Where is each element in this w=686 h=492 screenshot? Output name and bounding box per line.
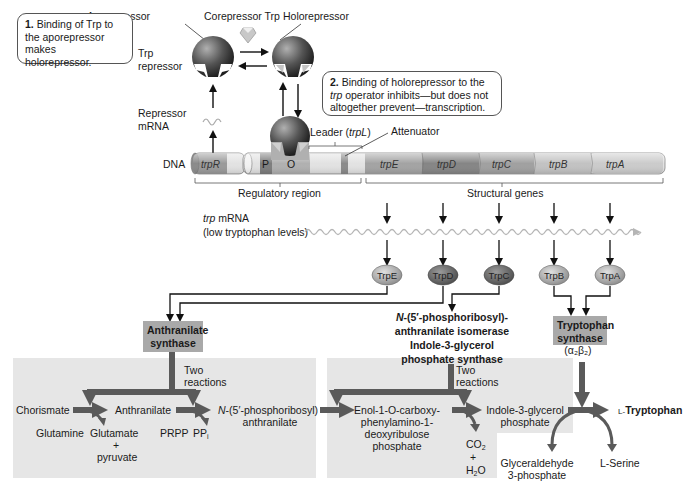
bound-holorepressor-icon — [270, 116, 310, 160]
svg-text:TrpD: TrpD — [433, 270, 454, 281]
igp-synthase-label-1: Indole-3-glycerol — [410, 339, 494, 351]
leader-label: Leader (trpL) — [310, 126, 371, 138]
protein-TrpE: TrpE — [372, 265, 402, 285]
regulatory-region-bracket — [195, 178, 361, 187]
callout-step-1: 1. Binding of Trp to the aporepressor ma… — [17, 13, 133, 64]
trp-repressor-label-1: Trp — [138, 47, 154, 59]
tryptophan-synthase-box: Tryptophan synthase — [553, 316, 607, 345]
holorepressor-icon — [272, 36, 314, 80]
igp-synthase-label-2: phosphate synthase — [401, 353, 503, 365]
npra-1: N-(5′-phosphoribosyl) — [218, 404, 318, 416]
chorismate: Chorismate — [16, 404, 70, 416]
holorepressor-label: Holorepressor — [283, 10, 349, 22]
dna-trpR-segment: trpR — [191, 153, 245, 174]
co2: CO2 — [466, 438, 486, 451]
pyruvate: pyruvate — [97, 451, 137, 463]
two-reactions-2b: reactions — [456, 376, 499, 388]
leader-bracket — [309, 142, 362, 149]
regulatory-region-label: Regulatory region — [238, 187, 321, 199]
isomerase-label-1: N-(5′-phosphoribosyl)- — [396, 311, 509, 323]
aporepressor-leader-line — [185, 24, 205, 40]
transcription-arrows — [387, 203, 610, 220]
gene-trpA: trpA — [606, 159, 625, 170]
igp-1: Indole-3-glycerol — [486, 404, 564, 416]
anthranilate-synthase-box: Anthranilate synthase — [143, 321, 203, 352]
cdrp-4: phosphate — [372, 440, 421, 452]
trp-repressor-label-2: repressor — [138, 60, 183, 72]
trp-mrna-sublabel: (low tryptophan levels) — [203, 226, 308, 238]
translation-arrows — [387, 240, 610, 262]
g3p-2: 3-phosphate — [508, 469, 567, 481]
svg-text:TrpE: TrpE — [377, 270, 397, 281]
svg-text:TrpB: TrpB — [544, 270, 564, 281]
gene-trpC: trpC — [492, 159, 512, 170]
gene-trpD: trpD — [437, 159, 456, 170]
callout-step-2: 2. Binding of holorepressor to the trp o… — [322, 71, 502, 116]
repressor-mrna-wave — [203, 119, 221, 125]
prpp: PRPP — [160, 427, 189, 439]
promoter-label: P — [262, 158, 269, 170]
structural-genes-label: Structural genes — [467, 187, 543, 199]
cdrp-1: Enol-1-O-carboxy- — [354, 404, 440, 416]
structural-genes-bracket — [366, 178, 663, 187]
repressor-mrna-label-2: mRNA — [138, 120, 169, 132]
anthranilate: Anthranilate — [115, 404, 171, 416]
aporepressor-icon — [192, 36, 234, 80]
assembly-connectors — [170, 286, 610, 318]
h2o: H2O — [466, 464, 486, 477]
gene-trpR: trpR — [201, 159, 220, 170]
npra-2: anthranilate — [243, 416, 298, 428]
isomerase-label-2: anthranilate isomerase — [395, 325, 510, 337]
corepressor-label: Corepressor Trp — [204, 10, 280, 22]
protein-TrpA: TrpA — [595, 265, 625, 285]
ppi: PPi — [193, 427, 209, 440]
dna-label: DNA — [163, 158, 185, 170]
g3p-1: Glyceraldehyde — [501, 457, 574, 469]
two-reactions-2a: Two — [456, 364, 475, 376]
gene-trpB: trpB — [549, 159, 568, 170]
trp-mrna-label: trp mRNA — [203, 212, 249, 224]
co2-plus: + — [470, 451, 476, 463]
two-reactions-1b: reactions — [184, 376, 227, 388]
igp-2: phosphate — [500, 416, 549, 428]
cdrp-3: deoxyribulose — [365, 428, 430, 440]
protein-TrpB: TrpB — [539, 265, 569, 285]
trp-synthase-subunits: (α₂β₂) — [564, 344, 591, 356]
l-tryptophan: L-Tryptophan — [618, 404, 682, 416]
gene-trpE: trpE — [380, 159, 399, 170]
repressor-mrna-label-1: Repressor — [138, 107, 187, 119]
glutamate-plus: + — [113, 439, 119, 451]
svg-text:TrpA: TrpA — [600, 270, 621, 281]
attenuator-label: Attenuator — [391, 125, 440, 137]
cdrp-2: phenylamino-1- — [361, 416, 434, 428]
glutamine: Glutamine — [36, 427, 84, 439]
trp-mrna-wave — [305, 230, 641, 235]
svg-text:TrpC: TrpC — [489, 270, 510, 281]
two-reactions-1a: Two — [184, 364, 203, 376]
glutamate: Glutamate — [90, 427, 139, 439]
protein-TrpC: TrpC — [484, 265, 514, 285]
thick-pathway-arrows — [73, 352, 601, 410]
corepressor-trp-icon — [240, 28, 256, 43]
l-serine: L-Serine — [600, 457, 640, 469]
protein-TrpD: TrpD — [428, 265, 458, 285]
